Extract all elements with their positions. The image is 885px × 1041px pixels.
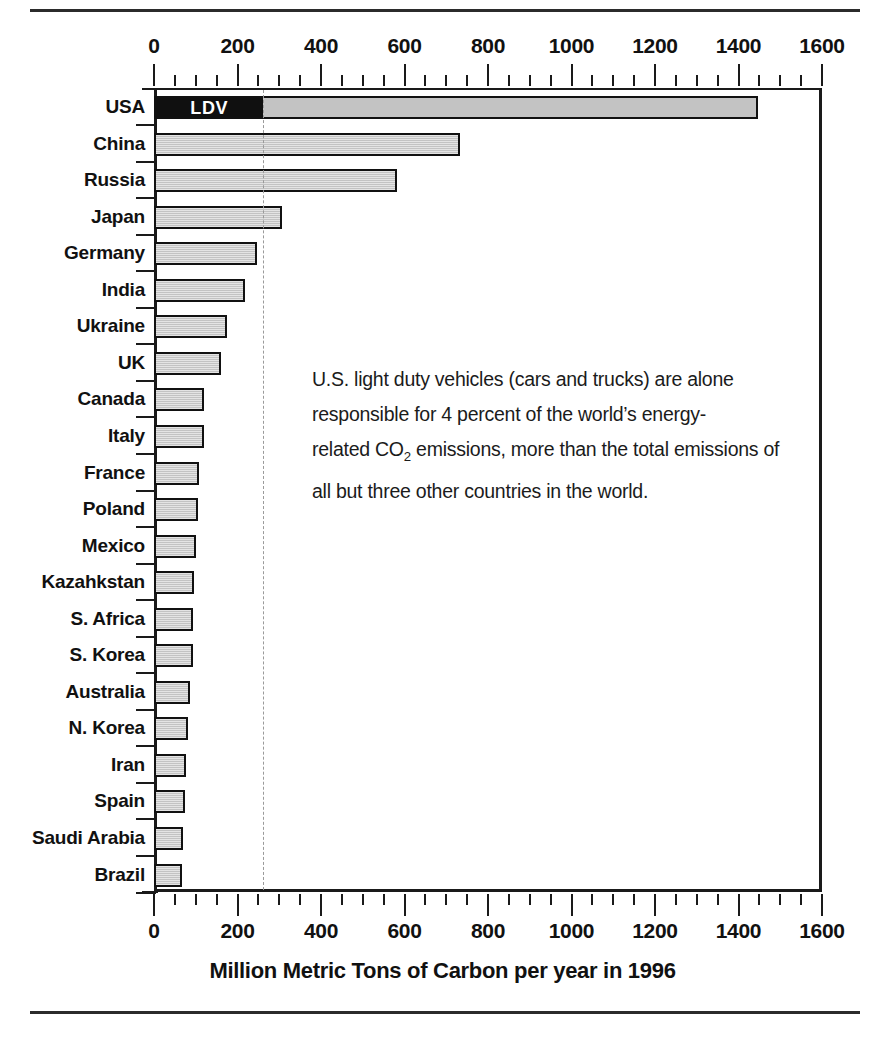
bar <box>154 571 194 594</box>
bar-row: Saudi Arabia <box>0 819 885 857</box>
category-label: Ukraine <box>0 307 145 345</box>
axis-tick-minor <box>362 75 364 86</box>
axis-tick-label: 1400 <box>716 919 762 943</box>
category-label: Saudi Arabia <box>0 819 145 857</box>
bar <box>154 315 227 338</box>
axis-tick-label: 1600 <box>799 34 845 58</box>
axis-tick-minor <box>466 75 468 86</box>
axis-tick-minor <box>466 894 468 905</box>
axis-tick-label: 400 <box>304 34 338 58</box>
bar-segment-ldv: LDV <box>156 98 263 117</box>
axis-tick-minor <box>779 75 781 86</box>
axis-tick-minor <box>529 75 531 86</box>
x-axis-caption: Million Metric Tons of Carbon per year i… <box>0 958 885 984</box>
bar <box>154 535 196 558</box>
category-label: Kazahkstan <box>0 563 145 601</box>
bar-row: Japan <box>0 198 885 236</box>
axis-tick-minor <box>550 75 552 86</box>
axis-tick-major <box>237 894 239 916</box>
bottom-rule <box>30 1011 860 1014</box>
axis-tick-minor <box>174 894 176 905</box>
annotation-line: related CO2 emissions, more than the tot… <box>312 432 812 474</box>
axis-tick-label: 800 <box>471 919 505 943</box>
axis-tick-label: 200 <box>220 34 254 58</box>
axis-tick-major <box>821 64 823 86</box>
axis-tick-major <box>404 64 406 86</box>
figure: 02004006008001000120014001600 0200400600… <box>0 0 885 1041</box>
axis-tick-minor <box>362 894 364 905</box>
axis-tick-minor <box>257 75 259 86</box>
bar <box>154 169 397 192</box>
axis-tick-minor <box>424 75 426 86</box>
category-label: Italy <box>0 417 145 455</box>
axis-tick-minor <box>299 894 301 905</box>
axis-tick-minor <box>633 894 635 905</box>
bar <box>154 388 204 411</box>
category-label: Brazil <box>0 856 145 894</box>
axis-tick-label: 600 <box>387 34 421 58</box>
axis-tick-major <box>320 64 322 86</box>
axis-tick-minor <box>717 894 719 905</box>
axis-tick-major <box>571 894 573 916</box>
bar <box>154 644 193 667</box>
category-label: India <box>0 271 145 309</box>
axis-tick-major <box>320 894 322 916</box>
axis-tick-label: 1400 <box>716 34 762 58</box>
bar <box>154 425 204 448</box>
axis-tick-minor <box>216 894 218 905</box>
bar-row: USALDV <box>0 88 885 126</box>
category-label: Spain <box>0 782 145 820</box>
axis-tick-major <box>654 894 656 916</box>
category-label: N. Korea <box>0 709 145 747</box>
bar <box>154 681 190 704</box>
bar <box>154 790 185 813</box>
bar-row: Mexico <box>0 527 885 565</box>
axis-tick-minor <box>383 894 385 905</box>
bar-row: Spain <box>0 782 885 820</box>
axis-tick-minor <box>612 75 614 86</box>
category-label: China <box>0 125 145 163</box>
axis-tick-minor <box>257 894 259 905</box>
bar-row: Germany <box>0 234 885 272</box>
axis-tick-minor <box>216 75 218 86</box>
category-label: Iran <box>0 746 145 784</box>
bar <box>154 827 183 850</box>
category-label: Poland <box>0 490 145 528</box>
top-rule <box>30 9 860 12</box>
category-tick <box>136 892 156 894</box>
category-label: France <box>0 454 145 492</box>
bar-row: India <box>0 271 885 309</box>
axis-tick-minor <box>383 75 385 86</box>
axis-tick-minor <box>508 894 510 905</box>
axis-tick-minor <box>529 894 531 905</box>
axis-tick-minor <box>591 75 593 86</box>
bar-row: S. Korea <box>0 636 885 674</box>
reference-line <box>263 90 264 890</box>
axis-tick-minor <box>445 75 447 86</box>
bar <box>154 754 186 777</box>
category-label: S. Korea <box>0 636 145 674</box>
category-label: Australia <box>0 673 145 711</box>
axis-tick-minor <box>278 75 280 86</box>
axis-tick-minor <box>633 75 635 86</box>
axis-tick-major <box>237 64 239 86</box>
axis-tick-minor <box>174 75 176 86</box>
annotation-line: all but three other countries in the wor… <box>312 474 812 509</box>
bar-row: N. Korea <box>0 709 885 747</box>
axis-tick-minor <box>195 894 197 905</box>
axis-tick-major <box>821 894 823 916</box>
axis-tick-major <box>487 894 489 916</box>
axis-tick-minor <box>696 894 698 905</box>
bar <box>154 717 188 740</box>
axis-tick-major <box>571 64 573 86</box>
bar <box>154 242 257 265</box>
axis-tick-label: 1200 <box>632 919 678 943</box>
category-label: Japan <box>0 198 145 236</box>
axis-tick-minor <box>341 894 343 905</box>
axis-tick-label: 1200 <box>632 34 678 58</box>
bar-row: S. Africa <box>0 600 885 638</box>
bar <box>154 864 182 887</box>
axis-tick-major <box>738 894 740 916</box>
axis-tick-label: 0 <box>148 34 159 58</box>
axis-tick-minor <box>591 894 593 905</box>
